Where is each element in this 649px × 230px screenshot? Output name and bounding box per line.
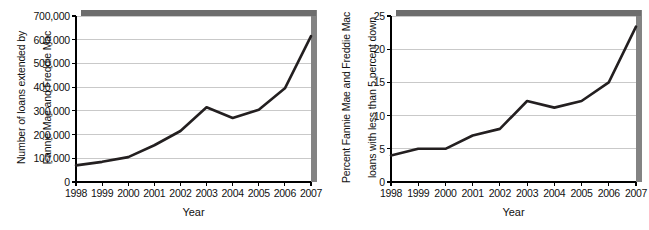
plot-shadow-top [81,10,316,16]
x-tick-label-right-4: 2002 [485,188,515,199]
x-axis-title-left: Year [76,206,311,218]
x-tick-label-right-3: 2001 [458,188,488,199]
x-tick-label-right-6: 2004 [539,188,569,199]
x-tick-label-right-0: 1998 [376,188,406,199]
x-tick-label-right-2: 2000 [430,188,460,199]
plot-shadow-right [636,10,642,182]
x-tick-label-left-9: 2007 [296,188,326,199]
plot-background [391,16,636,182]
x-axis-title-right: Year [391,206,636,218]
x-tick-label-right-8: 2006 [594,188,624,199]
x-tick-label-right-1: 1999 [403,188,433,199]
chart-panel-loans-extended: Number of loans extended by Fannie Mae a… [0,0,324,230]
chart-panel-percent-low-downpayment: Percent Fannie Mae and Freddie Mac loans… [325,0,649,230]
x-tick-label-right-9: 2007 [621,188,649,199]
dual-line-chart-figure: Number of loans extended by Fannie Mae a… [0,0,649,230]
plot-shadow-top [396,10,641,16]
x-tick-label-right-5: 2003 [512,188,542,199]
plot-background [76,16,311,182]
x-tick-label-right-7: 2005 [567,188,597,199]
